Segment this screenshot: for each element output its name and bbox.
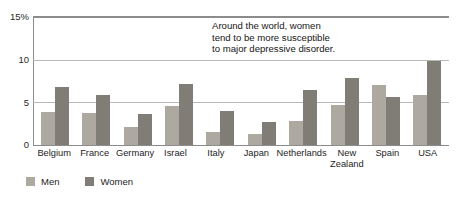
legend-swatch-men-icon: [26, 177, 35, 186]
depression-prevalence-bar-chart: 15% 10 5 0 BelgiumFranceGermanyIsraelIta…: [0, 0, 459, 199]
bar-men[interactable]: [289, 121, 303, 145]
bar-men[interactable]: [165, 106, 179, 145]
x-axis-label: Spain: [367, 148, 407, 169]
bar-group: [34, 17, 75, 145]
y-axis-tick-0: 0: [0, 139, 29, 150]
bar-women[interactable]: [138, 114, 152, 145]
bar-women[interactable]: [386, 97, 400, 145]
bar-women[interactable]: [427, 61, 441, 145]
legend-item-men[interactable]: Men: [26, 176, 59, 187]
bar-group: [117, 17, 158, 145]
bar-women[interactable]: [55, 87, 69, 145]
x-axis-label: France: [74, 148, 114, 169]
legend-item-women[interactable]: Women: [85, 176, 133, 187]
x-axis-label: Japan: [236, 148, 276, 169]
bar-women[interactable]: [345, 78, 359, 145]
legend-swatch-women-icon: [85, 177, 94, 186]
y-axis-tick-10: 10: [0, 54, 29, 65]
bar-men[interactable]: [331, 105, 345, 145]
bar-men[interactable]: [372, 85, 386, 145]
y-axis-tick-15: 15%: [0, 11, 29, 22]
chart-legend: Men Women: [26, 176, 133, 187]
x-axis-label: USA: [408, 148, 448, 169]
x-axis-labels: BelgiumFranceGermanyIsraelItalyJapanNeth…: [34, 148, 448, 169]
bar-men[interactable]: [124, 127, 138, 145]
bar-men[interactable]: [248, 134, 262, 145]
x-axis-label: Netherlands: [277, 148, 327, 169]
bar-men[interactable]: [413, 95, 427, 145]
bar-women[interactable]: [220, 111, 234, 145]
x-axis-label: Italy: [196, 148, 236, 169]
bar-women[interactable]: [262, 122, 276, 145]
bar-women[interactable]: [179, 84, 193, 145]
x-axis-label: Belgium: [34, 148, 74, 169]
bar-women[interactable]: [96, 95, 110, 145]
x-axis-label: Germany: [115, 148, 155, 169]
bar-men[interactable]: [206, 132, 220, 145]
x-axis-label: Israel: [155, 148, 195, 169]
x-axis-label: New Zealand: [327, 148, 367, 169]
bar-group: [75, 17, 116, 145]
bar-women[interactable]: [303, 90, 317, 145]
legend-label-women: Women: [100, 176, 133, 187]
x-axis-line: [33, 145, 449, 146]
bar-group: [158, 17, 199, 145]
y-axis-tick-5: 5: [0, 97, 29, 108]
bar-group: [407, 17, 448, 145]
bar-men[interactable]: [82, 113, 96, 145]
legend-label-men: Men: [41, 176, 59, 187]
chart-annotation: Around the world, women tend to be more …: [212, 20, 392, 55]
bar-men[interactable]: [41, 112, 55, 145]
